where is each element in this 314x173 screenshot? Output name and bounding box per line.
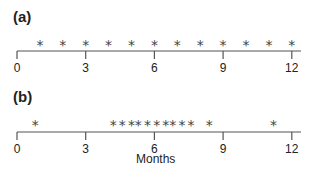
asterisk-marker: * [206, 117, 213, 133]
x-axis-label: Months [136, 152, 175, 166]
timeline-chart: 036912************036912************* [0, 0, 314, 173]
asterisk-marker: * [174, 37, 181, 53]
x-tick-label: 9 [220, 142, 227, 156]
asterisk-marker: * [178, 117, 185, 133]
asterisk-marker: * [288, 37, 295, 53]
x-tick-label: 9 [220, 61, 227, 75]
asterisk-marker: * [169, 117, 176, 133]
asterisk-marker: * [59, 37, 66, 53]
x-tick-label: 12 [285, 61, 299, 75]
panel-b: 036912************* [14, 117, 301, 156]
asterisk-marker: * [270, 117, 277, 133]
x-tick-label: 0 [14, 142, 21, 156]
asterisk-marker: * [105, 37, 112, 53]
asterisk-marker: * [265, 37, 272, 53]
asterisk-marker: * [197, 37, 204, 53]
asterisk-marker: * [144, 117, 151, 133]
asterisk-marker: * [119, 117, 126, 133]
asterisk-marker: * [110, 117, 117, 133]
asterisk-marker: * [82, 37, 89, 53]
asterisk-marker: * [243, 37, 250, 53]
asterisk-marker: * [135, 117, 142, 133]
asterisk-marker: * [220, 37, 227, 53]
asterisk-marker: * [128, 37, 135, 53]
asterisk-marker: * [151, 37, 158, 53]
x-tick-label: 12 [285, 142, 299, 156]
asterisk-marker: * [188, 117, 195, 133]
x-tick-label: 0 [14, 61, 21, 75]
x-tick-label: 6 [151, 61, 158, 75]
x-tick-label: 3 [82, 142, 89, 156]
asterisk-marker: * [32, 117, 39, 133]
asterisk-marker: * [153, 117, 160, 133]
asterisk-marker: * [36, 37, 43, 53]
panel-a: 036912************ [14, 37, 301, 75]
x-tick-label: 3 [82, 61, 89, 75]
